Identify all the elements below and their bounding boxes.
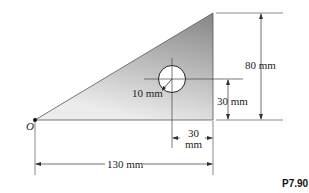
problem-number: P7.90 <box>282 178 308 189</box>
base-130-label: 130 mm <box>107 159 143 170</box>
height-80-label: 80 mm <box>245 60 276 71</box>
origin-label: O <box>26 121 34 132</box>
triangular-plate <box>35 13 213 120</box>
hole-offset-unit-label: mm <box>185 139 202 150</box>
hole-radius-label: 10 mm <box>132 88 163 99</box>
hole-height-30-label: 30 mm <box>217 96 248 107</box>
